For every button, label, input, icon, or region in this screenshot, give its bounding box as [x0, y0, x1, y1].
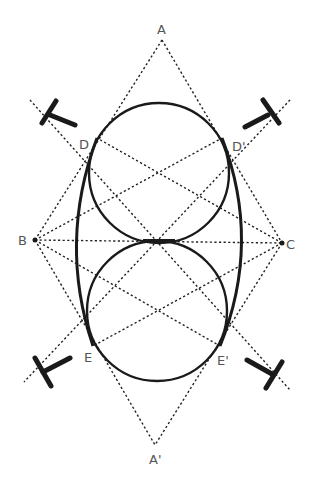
point-c: [280, 241, 285, 246]
oval-construction-diagram: A A' B C D D' E E': [0, 0, 314, 478]
upper-circle: [89, 103, 229, 243]
t-square-icon-top-left: [42, 101, 75, 125]
diagonal-d-eprime: [30, 100, 290, 390]
line-b-dprime: [35, 138, 222, 240]
line-c-e: [93, 243, 282, 346]
t-square-icon-top-right: [245, 100, 279, 127]
t-square-icon-bottom-right: [247, 360, 282, 388]
point-b: [33, 238, 38, 243]
label-c: C: [286, 237, 295, 252]
t-square-icon-bottom-left: [35, 358, 70, 386]
label-d: D: [79, 137, 89, 152]
line-b-eprime: [35, 240, 220, 346]
label-a-prime: A': [149, 452, 161, 467]
label-a: A: [157, 22, 166, 37]
label-b: B: [18, 233, 27, 248]
label-e: E: [84, 350, 92, 365]
lower-circle: [87, 241, 227, 381]
label-e-prime: E': [217, 353, 229, 368]
label-d-prime: D': [232, 139, 246, 154]
